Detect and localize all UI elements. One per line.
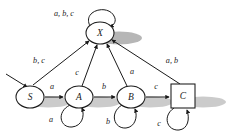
state-a-label: A — [75, 92, 82, 102]
edge-label-b-to-c: c — [154, 82, 158, 91]
edge-label-a-to-b: b — [102, 82, 106, 91]
edge-label-b-self: b — [106, 117, 110, 126]
state-node-b[interactable]: B — [117, 86, 145, 108]
node-layer: S A B C X — [16, 22, 195, 108]
state-b-label: B — [128, 92, 134, 102]
edge-b-self-loop — [114, 105, 136, 128]
state-s-label: S — [28, 92, 33, 102]
state-x-label: X — [96, 28, 104, 38]
edge-label-x-self: a, b, c — [54, 9, 74, 18]
state-node-s[interactable]: S — [16, 86, 44, 108]
edge-label-s-to-x: b, c — [33, 56, 45, 65]
state-c-label: C — [180, 91, 187, 101]
state-node-a[interactable]: A — [65, 86, 93, 108]
edge-label-c-self: c — [157, 119, 161, 128]
edge-a-to-x — [82, 45, 97, 86]
edge-label-a-self: a — [49, 115, 53, 124]
edge-b-to-x — [107, 44, 127, 86]
diagram-canvas: S A B C X a, b, c b, c a, b — [0, 0, 229, 134]
state-node-c[interactable]: C — [171, 84, 195, 108]
edge-label-s-to-a: a — [50, 82, 54, 91]
edge-label-c-to-x: a, b — [166, 56, 178, 65]
edge-c-self-loop — [167, 108, 188, 130]
state-node-x[interactable]: X — [86, 22, 114, 44]
edge-label-a-to-x: c — [75, 68, 79, 77]
edge-start-to-s — [6, 74, 27, 87]
state-machine-diagram: S A B C X a, b, c b, c a, b — [0, 0, 229, 134]
edge-label-b-to-x: a — [130, 67, 134, 76]
